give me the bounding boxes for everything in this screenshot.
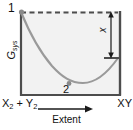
- state-1-marker: [19, 9, 24, 14]
- x-axis-caption: Extent: [0, 115, 133, 125]
- state-1-label: 1: [8, 2, 15, 14]
- y-axis-title-subscript: sys: [11, 40, 18, 51]
- reactant-plus-y-symbol: + Y: [14, 97, 34, 109]
- x-axis-right-endpoint-label: XY: [117, 98, 132, 109]
- gap-measure-label: x: [98, 28, 108, 33]
- y-axis-title-main: G: [5, 51, 17, 60]
- extent-arrowhead: [85, 105, 93, 112]
- free-energy-extent-diagram: [0, 0, 133, 130]
- reactant-y-subscript: 2: [33, 102, 37, 111]
- state-2-label: 2: [63, 84, 69, 95]
- x-axis-left-endpoint-label: X2 + Y2: [2, 98, 37, 111]
- y-axis-title: Gsys: [6, 30, 18, 70]
